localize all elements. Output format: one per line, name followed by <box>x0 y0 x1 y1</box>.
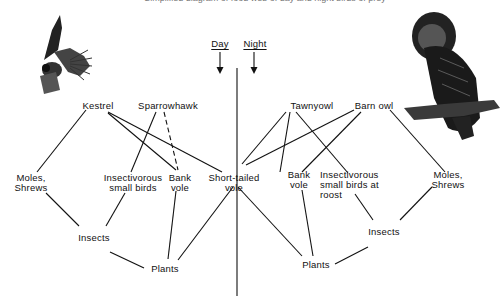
node-insects-right: Insects <box>366 227 402 237</box>
day-label: Day <box>207 39 233 49</box>
kestrel-illustration <box>30 10 95 95</box>
node-tawny-owl: Tawnyowl <box>288 101 336 111</box>
node-moles-shrews-left: Moles, Shrews <box>8 173 54 193</box>
node-bank-vole-right: Bank vole <box>285 170 313 190</box>
node-sparrowhawk: Sparrowhawk <box>136 101 200 111</box>
node-insectivorous-small-birds-at-roost: Insectivorous small birds at roost <box>320 170 386 200</box>
node-plants-right: Plants <box>299 260 333 270</box>
node-kestrel: Kestrel <box>78 101 118 111</box>
node-moles-shrews-right: Moles, Shrews <box>425 170 471 190</box>
tawny-owl-illustration <box>404 8 502 143</box>
node-barn-owl: Barn owl <box>352 101 396 111</box>
night-label: Night <box>239 39 271 49</box>
node-insects-left: Insects <box>76 233 112 243</box>
node-plants-left: Plants <box>148 264 182 274</box>
node-insectivorous-small-birds-left: Insectivorous small birds <box>100 173 166 193</box>
node-bank-vole-left: Bank vole <box>166 173 194 193</box>
node-short-tailed-vole: Short-tailed vole <box>203 173 265 193</box>
food-web-diagram: Simplified diagram of food web of day an… <box>0 0 502 302</box>
